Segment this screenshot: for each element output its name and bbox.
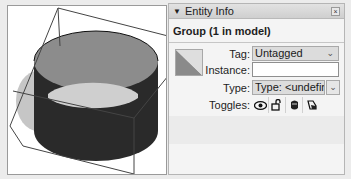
panel-title: Entity Info xyxy=(185,5,234,17)
toggle-group xyxy=(252,97,320,113)
tag-dropdown[interactable]: Untagged ⌄ xyxy=(252,46,339,61)
type-dropdown[interactable]: Type: <undefined: xyxy=(252,80,325,95)
entity-info-panel: ▼ Entity Info × Group (1 in model) Tag: … xyxy=(168,3,345,175)
material-swatch-icon[interactable] xyxy=(175,49,203,76)
lock-icon[interactable] xyxy=(269,97,286,113)
eye-icon[interactable] xyxy=(252,97,269,113)
receive-shadows-icon[interactable] xyxy=(286,97,303,113)
panel-header[interactable]: ▼ Entity Info × xyxy=(169,4,344,19)
divider xyxy=(169,42,344,43)
close-icon[interactable]: × xyxy=(331,7,340,16)
app-window: ▼ Entity Info × Group (1 in model) Tag: … xyxy=(0,0,351,179)
selection-summary: Group (1 in model) xyxy=(173,25,271,37)
model-viewport[interactable] xyxy=(7,5,167,175)
tag-value: Untagged xyxy=(255,47,303,59)
type-value: Type: <undefined: xyxy=(255,81,325,93)
tag-label: Tag: xyxy=(209,48,250,60)
chevron-down-icon[interactable]: ⌄ xyxy=(326,80,340,95)
instance-input[interactable] xyxy=(252,62,339,77)
cast-shadows-icon[interactable] xyxy=(303,97,320,113)
panel-lower-area xyxy=(169,116,344,144)
cylinder-model xyxy=(8,6,167,175)
instance-label: Instance: xyxy=(205,64,250,76)
chevron-down-icon: ⌄ xyxy=(326,47,334,60)
triangle-down-icon[interactable]: ▼ xyxy=(173,7,181,16)
toggles-label: Toggles: xyxy=(199,99,250,111)
type-label: Type: xyxy=(209,82,250,94)
